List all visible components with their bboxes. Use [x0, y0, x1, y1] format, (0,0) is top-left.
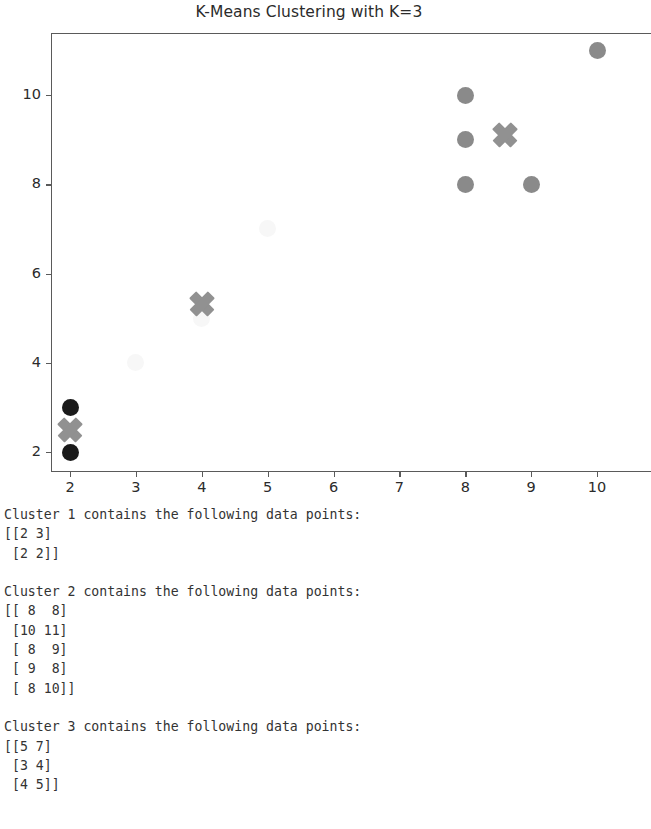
cluster-output-array: [[2 3] [2 2]] [4, 524, 616, 563]
y-axis-tick [46, 95, 51, 96]
x-axis-tick-label: 7 [379, 479, 419, 495]
cluster-output-array: [[5 7] [3 4] [4 5]] [4, 737, 616, 795]
x-axis-tick-label: 3 [116, 479, 156, 495]
cluster-output-block: Cluster 1 contains the following data po… [4, 505, 616, 563]
console-output: Cluster 1 contains the following data po… [4, 505, 616, 794]
y-axis-tick-label: 8 [0, 175, 41, 191]
plot-axes-frame [51, 33, 651, 472]
cluster-output-header: Cluster 2 contains the following data po… [4, 582, 616, 601]
x-axis-tick-label: 8 [445, 479, 485, 495]
y-axis-tick-label: 10 [0, 86, 41, 102]
y-axis-tick [46, 363, 51, 364]
cluster-output-header: Cluster 3 contains the following data po… [4, 717, 616, 736]
x-axis-tick [531, 472, 532, 477]
cluster-output-block: Cluster 2 contains the following data po… [4, 582, 616, 698]
x-axis-tick [202, 472, 203, 477]
x-axis-tick [597, 472, 598, 477]
x-axis-tick-label: 6 [314, 479, 354, 495]
cluster-output-array: [[ 8 8] [10 11] [ 8 9] [ 9 8] [ 8 10]] [4, 601, 616, 697]
y-axis-tick [46, 184, 51, 185]
x-axis-tick [70, 472, 71, 477]
chart-title: K-Means Clustering with K=3 [0, 3, 618, 21]
cluster-output-block: Cluster 3 contains the following data po… [4, 717, 616, 794]
x-axis-tick [268, 472, 269, 477]
cluster-output-header: Cluster 1 contains the following data po… [4, 505, 616, 524]
x-axis-tick [136, 472, 137, 477]
y-axis-tick-label: 4 [0, 354, 41, 370]
x-axis-tick-label: 4 [182, 479, 222, 495]
x-axis-tick-label: 10 [577, 479, 617, 495]
x-axis-tick [334, 472, 335, 477]
y-axis-tick [46, 274, 51, 275]
x-axis-tick [399, 472, 400, 477]
y-axis-tick [46, 452, 51, 453]
x-axis-tick-label: 5 [248, 479, 288, 495]
x-axis-tick-label: 9 [511, 479, 551, 495]
x-axis-tick-label: 2 [50, 479, 90, 495]
x-axis-tick [465, 472, 466, 477]
y-axis-tick-label: 6 [0, 265, 41, 281]
y-axis-tick-label: 2 [0, 443, 41, 459]
kmeans-figure: K-Means Clustering with K=3 234567891024… [0, 0, 618, 500]
